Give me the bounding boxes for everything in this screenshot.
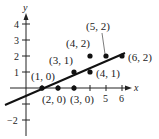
point-4-1: [87, 69, 92, 74]
x-tick-6: 6: [119, 93, 124, 104]
x-axis-arrow-icon: [125, 86, 132, 91]
point-5-2: [103, 53, 108, 58]
label-2-0: (2, 0): [42, 93, 66, 106]
label-4-1: (4, 1): [96, 67, 120, 80]
label-1-0: (1, 0): [31, 70, 55, 83]
y-tick-3: 3: [14, 35, 19, 46]
label-leader-line: [102, 33, 105, 54]
label-5-2: (5, 2): [86, 20, 110, 33]
y-tick-4: 4: [14, 19, 19, 30]
label-3-1: (3, 1): [49, 54, 73, 67]
point-3-1: [71, 69, 76, 74]
point-3-0: [71, 85, 76, 90]
label-6-2: (6, 2): [128, 51, 152, 64]
y-axis-arrow-icon: [24, 13, 29, 20]
point-1-0: [39, 85, 44, 90]
y-tick-1: 1: [14, 67, 19, 78]
point-4-2: [87, 53, 92, 58]
label-4-2: (4, 2): [66, 37, 90, 50]
label-3-0: (3, 0): [70, 93, 94, 106]
y-tick-neg2: −2: [7, 115, 18, 126]
point-6-2: [119, 53, 124, 58]
scatter-plot: x y 5 6 4 3 2 1 −2 (1, 0) (2, 0): [0, 0, 159, 139]
x-axis-label: x: [133, 82, 139, 93]
x-tick-5: 5: [103, 93, 108, 104]
point-2-0: [55, 85, 60, 90]
y-axis-label: y: [22, 2, 28, 13]
y-tick-2: 2: [14, 51, 19, 62]
